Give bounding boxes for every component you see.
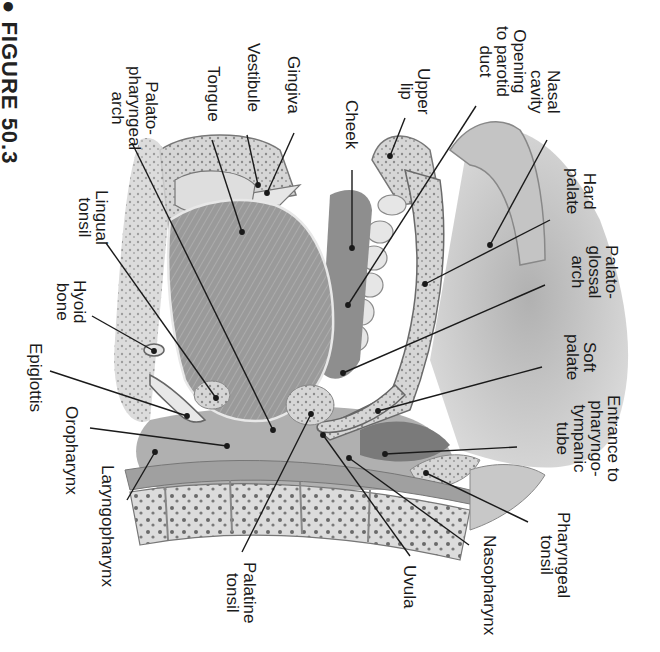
leader-dot-tongue bbox=[240, 230, 244, 234]
label-nasopharynx: Nasopharynx bbox=[481, 535, 498, 635]
label-palatoglossal-arch: Palato- glossal arch bbox=[569, 245, 620, 299]
label-vestibule: Vestibule bbox=[245, 43, 262, 112]
label-uvula: Uvula bbox=[401, 565, 418, 608]
label-gingiva: Gingiva bbox=[285, 56, 302, 114]
neck-tissue bbox=[114, 138, 171, 422]
label-pharyngeal-tonsil: Pharyngeal tonsil bbox=[538, 512, 572, 598]
leader-dot-hyoid-bone bbox=[152, 349, 156, 353]
palatine-tonsil-shape bbox=[286, 385, 334, 425]
label-upper-lip: Upper lip bbox=[398, 68, 432, 114]
leader-dot-hard-palate bbox=[423, 282, 427, 286]
label-laryngopharynx: Laryngopharynx bbox=[99, 465, 116, 587]
leader-dot-palatoglossal-arch bbox=[341, 371, 345, 375]
leader-dot-soft-palate bbox=[376, 409, 380, 413]
leader-dot-upper-lip bbox=[388, 154, 392, 158]
leader-dot-nasal-cavity bbox=[488, 243, 492, 247]
leader-dot-epiglottis bbox=[185, 414, 189, 418]
leader-dot-palatopharyngeal-arch bbox=[271, 428, 275, 432]
nasopharynx-posterior bbox=[470, 465, 545, 530]
leader-dot-oropharynx bbox=[225, 444, 229, 448]
label-tongue: Tongue bbox=[205, 66, 222, 122]
anatomy-figure: ● FIGURE 50.3 bbox=[0, 0, 660, 652]
leader-dot-nasopharynx bbox=[347, 456, 351, 460]
leader-dot-uvula bbox=[321, 433, 325, 437]
lingual-tonsil-shape bbox=[194, 381, 230, 409]
label-lingual-tonsil: Lingual tonsil bbox=[76, 190, 110, 245]
leader-dot-laryngopharynx bbox=[153, 450, 157, 454]
label-hard-palate: Hard palate bbox=[564, 168, 598, 214]
label-soft-palate: Soft palate bbox=[564, 334, 598, 380]
label-oropharynx: Oropharynx bbox=[63, 406, 80, 495]
leader-dot-palatine-tonsil bbox=[309, 412, 313, 416]
label-hyoid-bone: Hyoid bone bbox=[54, 280, 88, 323]
label-nasal-cavity: Nasal cavity bbox=[528, 70, 562, 113]
leader-dot-vestibule bbox=[256, 183, 260, 187]
label-palatopharyngeal-arch: Palato- pharyngeal arch bbox=[109, 66, 160, 150]
leader-dot-cheek bbox=[350, 246, 354, 250]
leader-dot-pharyngeal-tonsil bbox=[424, 471, 428, 475]
leader-dot-opening-parotid-duct bbox=[346, 303, 350, 307]
label-palatine-tonsil: Palatine tonsil bbox=[224, 562, 258, 623]
leader-dot-entrance-pharyngotympanic-tube bbox=[383, 452, 387, 456]
leader-dot-lingual-tonsil bbox=[214, 396, 218, 400]
label-entrance-pharyngotympanic-tube: Entrance to pharyngo- tympanic tube bbox=[554, 395, 622, 482]
label-opening-parotid-duct: Opening to parotid duct bbox=[477, 26, 528, 97]
label-epiglottis: Epiglottis bbox=[27, 343, 44, 412]
leader-dot-gingiva bbox=[265, 191, 269, 195]
label-cheek: Cheek bbox=[343, 100, 360, 149]
